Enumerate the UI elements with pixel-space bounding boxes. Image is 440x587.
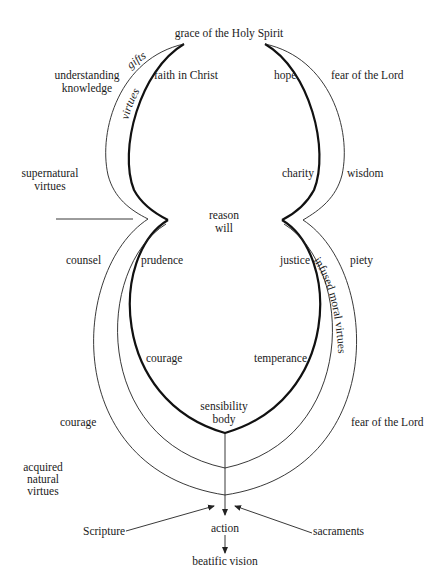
supernatural-label: supernatural <box>22 167 79 180</box>
will-label: will <box>215 222 233 234</box>
hope-label: hope <box>274 69 296 82</box>
justice-label: justice <box>279 254 310 267</box>
counsel-label: counsel <box>66 254 101 266</box>
fear-of-the-lord-lower-label: fear of the Lord <box>351 416 424 428</box>
reason-label: reason <box>209 209 239 221</box>
wisdom-label: wisdom <box>347 167 383 179</box>
temperance-label: temperance <box>254 352 307 365</box>
beatific-vision-label: beatific vision <box>192 555 258 567</box>
scripture-label: Scripture <box>83 525 125 538</box>
virtues-category-label: virtues <box>34 180 66 192</box>
sensibility-label: sensibility <box>200 400 248 413</box>
charity-label: charity <box>282 167 314 180</box>
action-label: action <box>211 522 239 534</box>
scripture-arrow <box>126 506 214 531</box>
courage-acquired-label: courage <box>60 416 96 429</box>
grace-label: grace of the Holy Spirit <box>175 27 284 40</box>
faith-in-christ-label: faith in Christ <box>154 69 219 81</box>
piety-label: piety <box>350 254 373 267</box>
virtues-diagram: grace of the Holy Spirit gifts virtues i… <box>0 0 440 587</box>
understanding-label: understanding <box>54 69 119 82</box>
gifts-arc-label: gifts <box>124 49 148 72</box>
courage-cardinal-label: courage <box>146 352 182 365</box>
sacraments-arrow <box>235 506 312 533</box>
sacraments-label: sacraments <box>313 525 365 537</box>
body-label: body <box>213 413 236 426</box>
fear-of-the-lord-upper-label: fear of the Lord <box>331 69 404 81</box>
prudence-label: prudence <box>141 254 183 267</box>
knowledge-label: knowledge <box>62 82 112 95</box>
natural-label: natural <box>27 473 59 485</box>
virtues-acquired-label: virtues <box>27 485 59 497</box>
